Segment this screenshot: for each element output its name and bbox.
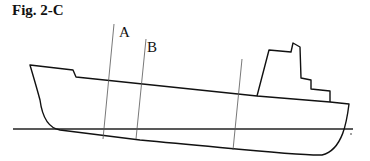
section-label-b: B (147, 39, 157, 55)
section-label-a: A (119, 24, 130, 40)
superstructure-outline (257, 43, 330, 102)
section-line-aft (233, 59, 242, 150)
section-line-b (136, 39, 146, 139)
ship-diagram: A B (0, 0, 370, 161)
